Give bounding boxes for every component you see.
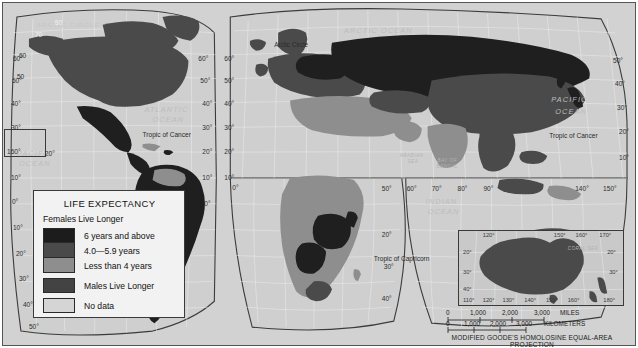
- lat-eu-40: 40°: [224, 100, 234, 107]
- label-arctic-circle-left: ARCTIC CIRCLE: [37, 21, 100, 28]
- label-arabian-sea-2: SEA: [408, 159, 419, 164]
- lat-left-50: 50°: [12, 77, 22, 84]
- scale-bar-kilometers: 0 1,000 2,000 3,000 KILOMETERS: [446, 320, 585, 333]
- scale-bars: 0 1,000 2,000 3,000 MILES 0 1,000 2,000 …: [440, 309, 620, 333]
- inset-lat-right-30: 30°: [609, 269, 618, 275]
- lat-right-40: 40°: [615, 81, 625, 88]
- scale-km-tick-1000: 1,000: [464, 320, 480, 327]
- scale-km-tick-0: 0: [446, 320, 450, 327]
- inset-lon-bot-120: 120°: [483, 297, 495, 303]
- lon-150: 150°: [603, 185, 617, 192]
- inset-lon-top-120: 120°: [483, 232, 495, 238]
- inset-lat-left-40: 40°: [463, 286, 472, 292]
- lon-0: 0°: [232, 184, 239, 191]
- lat-am-30: 30°: [202, 124, 212, 131]
- lat-am-60: 60°: [198, 55, 208, 62]
- lat-eu-10: 10°: [224, 174, 234, 181]
- lat-cap-20: 20°: [382, 231, 392, 238]
- map-legend[interactable]: LIFE EXPECTANCY Females Live Longer 6 ye…: [33, 190, 185, 318]
- label-pacific-ocean-w-2: OCEAN: [19, 159, 51, 168]
- lon-80: 80°: [458, 185, 468, 192]
- legend-swatch-no-data: [43, 298, 75, 313]
- lon-70: 70°: [432, 185, 442, 192]
- legend-item[interactable]: 6 years and above: [43, 228, 176, 243]
- inset-lon-bot-110: 110°: [463, 297, 474, 303]
- left-longitude-callout-box: 160°: [4, 129, 46, 157]
- lat-right-30: 30°: [617, 104, 627, 111]
- lat-label-70: 70: [35, 31, 43, 38]
- lat-left-60: 60°: [13, 55, 23, 62]
- lat-am-0: 0°: [204, 200, 211, 207]
- lon-60: 60°: [407, 185, 417, 192]
- label-arabian-sea-1: ARABIAN: [399, 153, 424, 158]
- lat-left-30b: 30°: [19, 275, 29, 282]
- lat-am-40: 40°: [202, 100, 212, 107]
- projection-note: MODIFIED GOODE'S HOMOLOSINE EQUAL-AREA P…: [432, 334, 632, 348]
- scale-miles-tick-2000: 2,000: [502, 309, 518, 316]
- lat-left-10: 10°: [11, 174, 21, 181]
- inset-lon-bot-150: 150°: [546, 297, 558, 303]
- inset-lon-bot-130: 130°: [502, 297, 514, 303]
- legend-swatch-6-years-and-above: [43, 228, 75, 243]
- legend-label-males-live-longer: Males Live Longer: [84, 281, 154, 291]
- inset-lon-top-170: 170°: [599, 232, 611, 238]
- lat-left-20b: 20°: [16, 250, 26, 257]
- label-atlantic-ocean-1: ATLANTIC: [144, 105, 189, 114]
- lat-left-10b: 10°: [13, 224, 23, 231]
- legend-label-4-to-5-9-years: 4.0—5.9 years: [84, 246, 140, 256]
- inset-lon-top-150: 150°: [554, 232, 566, 238]
- legend-label-less-than-4-years: Less than 4 years: [84, 261, 152, 271]
- label-atlantic-ocean-2: OCEAN: [153, 115, 185, 124]
- legend-subtitle: Females Live Longer: [43, 214, 176, 224]
- scale-miles-tick-1000: 1,000: [470, 309, 486, 316]
- inset-lat-left-30: 30°: [463, 269, 472, 275]
- scale-miles-tick-3000: 3,000: [534, 309, 550, 316]
- legend-swatch-males-live-longer: [43, 278, 75, 293]
- lat-am-50: 50°: [200, 77, 210, 84]
- left-box-label: 160°: [7, 148, 21, 155]
- inset-lat-right-20: 20°: [607, 249, 616, 255]
- label-bay-of-bengal-2: BENGAL: [437, 164, 459, 169]
- screenshot-root: ARCTIC CIRCLE Arctic Circle ARCTIC OCEAN…: [0, 0, 638, 348]
- lat-left-40: 40°: [11, 100, 21, 107]
- legend-item[interactable]: Less than 4 years: [43, 258, 176, 273]
- legend-label-no-data: No data: [84, 301, 114, 311]
- inset-lon-bot-180: 180°: [603, 297, 615, 303]
- lat-am-20: 20°: [202, 148, 212, 155]
- lat-am-10: 10°: [202, 174, 212, 181]
- lat-eu-50: 50°: [224, 77, 234, 84]
- legend-item[interactable]: 4.0—5.9 years: [43, 243, 176, 258]
- inset-lon-bot-140: 140°: [524, 297, 536, 303]
- lat-left-0: 0°: [12, 198, 19, 205]
- legend-title: LIFE EXPECTANCY: [43, 198, 176, 209]
- legend-swatch-4-to-5-9-years: [43, 243, 75, 258]
- australia-inset-map[interactable]: CORAL SEA 120° 150° 160° 170° 20° 30° 40…: [458, 230, 624, 306]
- inset-label-coral-sea: CORAL SEA: [568, 247, 598, 252]
- label-pacific-ocean-e-1: PACIFIC: [551, 95, 587, 104]
- lat-label-80: 80: [55, 19, 63, 26]
- inset-lon-top-160: 160°: [576, 232, 588, 238]
- lat-right-10: 10°: [619, 154, 629, 161]
- label-pacific-ocean-e-2: OCEAN: [555, 107, 587, 116]
- scale-km-unit: KILOMETERS: [544, 320, 585, 327]
- label-tropic-of-capricorn: Tropic of Capricorn: [374, 255, 430, 263]
- scale-miles-unit: MILES: [560, 309, 579, 316]
- legend-label-6-years-and-above: 6 years and above: [84, 231, 155, 241]
- legend-item[interactable]: No data: [43, 298, 176, 313]
- lat-cap-40: 40°: [382, 295, 392, 302]
- scale-km-tick-2000: 2,000: [490, 320, 506, 327]
- scale-km-tick-3000: 3,000: [516, 320, 532, 327]
- lon-90: 90°: [483, 185, 493, 192]
- lon-140: 140°: [575, 185, 589, 192]
- inset-lon-bot-160: 160°: [568, 297, 580, 303]
- lat-eu-20: 20°: [224, 148, 234, 155]
- label-arctic-circle-right: Arctic Circle: [274, 41, 308, 48]
- lat-right-50: 50°: [613, 57, 623, 64]
- label-tropic-of-cancer-east: Tropic of Cancer: [549, 132, 598, 140]
- legend-swatch-less-than-4-years: [43, 258, 75, 273]
- label-indian-ocean-1: INDIAN: [426, 197, 458, 206]
- lat-left-40b: 40°: [23, 301, 33, 308]
- legend-item[interactable]: Males Live Longer: [43, 278, 176, 293]
- lat-right-20: 20°: [619, 128, 629, 135]
- lat-eu-30: 30°: [224, 124, 234, 131]
